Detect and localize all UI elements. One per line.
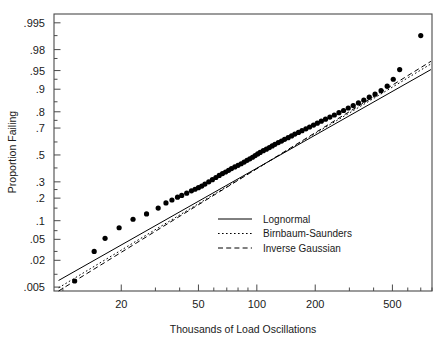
y-tick-label: .7 [36,122,45,134]
data-point [336,110,341,115]
y-tick-label: .3 [36,176,45,188]
y-tick-label: .2 [36,192,45,204]
plot-frame [54,14,432,291]
data-point [397,67,402,72]
x-tick-label: 20 [115,298,127,310]
y-tick-label: .02 [30,254,45,266]
x-tick-label: 50 [192,298,204,310]
data-point [130,217,135,222]
legend-label: Inverse Gaussian [263,243,341,254]
data-point [169,197,174,202]
y-axis-ticks [54,23,61,287]
data-point [144,211,149,216]
data-point [391,77,396,82]
data-point [163,200,168,205]
data-point [184,191,189,196]
x-tick-label: 200 [306,298,324,310]
y-tick-label: .5 [36,149,45,161]
data-point [332,112,337,117]
data-point [72,278,77,283]
data-point [356,100,361,105]
data-point [102,236,107,241]
y-axis-title: Proportion Failing [6,111,18,193]
data-point [372,92,377,97]
probability-plot-figure: 2050100200500 .005.02.05.1.2.3.5.7.8.9.9… [0,0,444,343]
data-point [385,84,390,89]
y-tick-label: .9 [36,83,45,95]
data-point [117,225,122,230]
data-point [179,193,184,198]
x-axis-ticks [63,285,432,292]
y-tick-label: .995 [24,17,45,29]
legend-label: Birnbaum-Saunders [263,228,352,239]
y-tick-labels: .005.02.05.1.2.3.5.7.8.9.95.98.995 [24,17,45,293]
data-point [367,95,372,100]
fit-line-birnbaum-saunders [59,64,431,288]
data-point [361,98,366,103]
y-tick-label: .98 [30,44,45,56]
data-point [378,88,383,93]
data-point [327,114,332,119]
data-points [72,33,423,284]
legend-label: Lognormal [263,214,310,225]
data-point [341,108,346,113]
chart-canvas: 2050100200500 .005.02.05.1.2.3.5.7.8.9.9… [0,0,444,343]
y-tick-label: .005 [24,281,45,293]
data-point [92,249,97,254]
x-axis-title: Thousands of Load Oscillations [170,323,317,335]
fit-line-lognormal [59,70,431,281]
y-tick-label: .95 [30,65,45,77]
data-point [351,103,356,108]
x-tick-label: 500 [383,298,401,310]
y-tick-label: .8 [36,106,45,118]
data-point [346,105,351,110]
data-point [156,206,161,211]
x-tick-label: 100 [248,298,266,310]
y-tick-label: .05 [30,233,45,245]
x-tick-labels: 2050100200500 [115,298,401,310]
data-point [418,33,423,38]
legend: LognormalBirnbaum-SaundersInverse Gaussi… [218,214,352,254]
y-tick-label: .1 [36,215,45,227]
